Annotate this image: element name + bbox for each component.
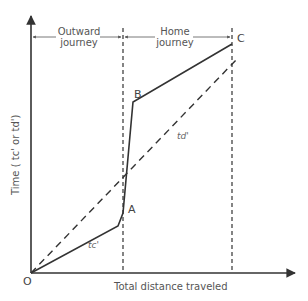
outward-journey-label: Outward journey [56,26,102,48]
curve-td-label: td' [177,131,189,142]
point-c-label: C [237,33,245,44]
point-b-label: B [134,89,142,100]
outward-label-line1: Outward [56,26,102,37]
origin-label: O [23,276,32,287]
curve-tc-label: tc' [88,240,99,251]
home-label-line2: journey [156,37,194,48]
y-axis-label: Time ( tc' or td') [10,115,21,195]
point-a-label: A [128,204,136,215]
diagram-canvas [0,0,308,301]
home-journey-label: Home journey [156,26,194,48]
x-axis-label: Total distance traveled [114,281,228,292]
outward-label-line2: journey [56,37,102,48]
curve-tc [31,44,232,273]
home-label-line1: Home [156,26,194,37]
